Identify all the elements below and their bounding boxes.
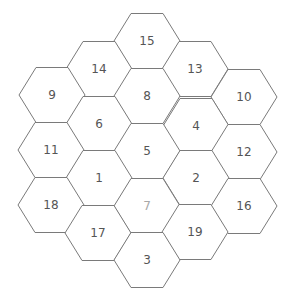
hex-number-label: 18 (43, 198, 58, 212)
hex-number-label: 14 (91, 62, 106, 76)
hex-number-label: 2 (192, 171, 200, 185)
hex-number-label: 3 (143, 253, 151, 267)
hex-number-label: 17 (90, 226, 105, 240)
hex-number-label: 13 (187, 62, 202, 76)
hex-number-label: 15 (139, 34, 154, 48)
hex-number-label: 19 (187, 225, 202, 239)
hex-number-label: 4 (192, 119, 200, 133)
hex-board: 15141398106411512121871617193 (0, 0, 290, 304)
hex-grid: 15141398106411512121871617193 (18, 14, 277, 288)
hex-number-label: 11 (43, 143, 58, 157)
hex-number-label: 10 (236, 90, 251, 104)
hex-number-label: 1 (95, 171, 103, 185)
hex-number-label: 9 (48, 88, 56, 102)
hex-number-label: 5 (143, 144, 151, 158)
hex-number-label: 7 (143, 199, 151, 213)
hex-number-label: 16 (236, 199, 251, 213)
hex-number-label: 8 (143, 89, 151, 103)
hex-number-label: 6 (95, 117, 103, 131)
hex-number-label: 12 (236, 145, 251, 159)
